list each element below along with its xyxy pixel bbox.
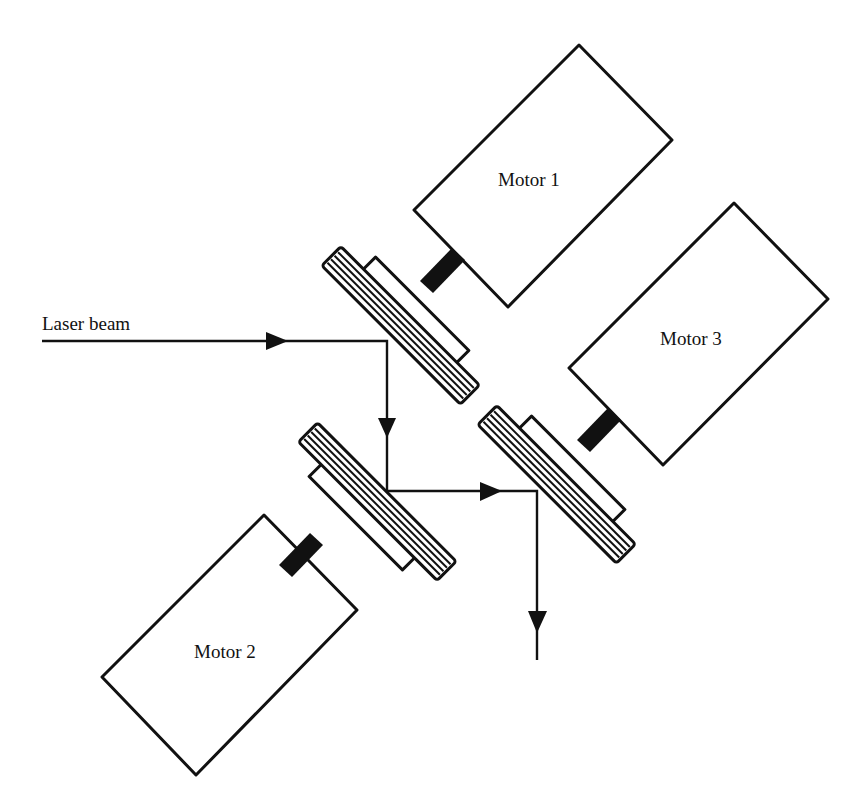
- motor-3-shaft: [577, 408, 621, 452]
- laser-beam-label: Laser beam: [42, 313, 130, 334]
- motor-1-shaft: [420, 248, 465, 293]
- motor-2: Motor 2: [102, 515, 357, 775]
- scanner-diagram: Motor 1 Motor 3 Motor 2: [0, 0, 860, 810]
- motor-2-label: Motor 2: [194, 641, 256, 662]
- arrow-down-icon: [378, 418, 396, 438]
- arrow-down-icon: [528, 611, 547, 633]
- arrow-right-icon: [266, 332, 288, 350]
- motor-1-label: Motor 1: [498, 169, 560, 190]
- arrow-right-icon: [480, 482, 502, 501]
- motor-3-label: Motor 3: [660, 328, 722, 349]
- mirror-2-plate: [299, 423, 457, 581]
- mirror-1-plate: [322, 247, 480, 405]
